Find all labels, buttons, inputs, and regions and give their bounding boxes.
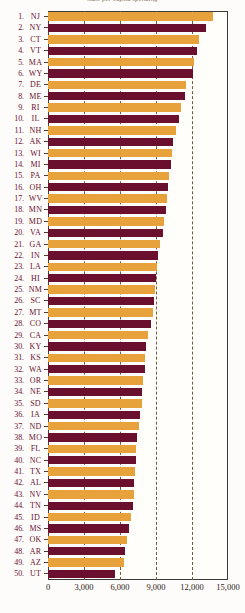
state-label: RI xyxy=(26,102,45,113)
bar-row: 33.OR xyxy=(0,375,245,386)
chart-title: state per capita spending xyxy=(0,0,245,3)
bar xyxy=(48,399,142,407)
state-label: ND xyxy=(26,421,45,432)
bar xyxy=(48,342,146,350)
bar xyxy=(48,388,142,396)
bar-row: 50.UT xyxy=(0,568,245,579)
bar xyxy=(48,103,181,111)
bar-row: 46.MS xyxy=(0,523,245,534)
bar-row: 23.LA xyxy=(0,261,245,272)
state-label: MN xyxy=(26,204,45,215)
state-label: IL xyxy=(26,113,45,124)
bar xyxy=(48,115,179,123)
bar xyxy=(48,479,134,487)
state-label: WA xyxy=(26,364,45,375)
state-label: GA xyxy=(26,239,45,250)
bar-row: 28.CO xyxy=(0,318,245,329)
bar-row: 15.PA xyxy=(0,170,245,181)
bar xyxy=(48,456,136,464)
bar xyxy=(48,69,193,77)
bar xyxy=(48,513,131,521)
x-axis-labels: 03,0006,0009,00012,00015,000 xyxy=(0,582,245,598)
rank-label: 40. xyxy=(0,455,24,466)
rank-label: 42. xyxy=(0,477,24,488)
bar-row: 31.KS xyxy=(0,352,245,363)
rank-label: 36. xyxy=(0,409,24,420)
rank-label: 9. xyxy=(0,102,24,113)
state-label: KY xyxy=(26,341,45,352)
rank-label: 29. xyxy=(0,330,24,341)
state-label: MI xyxy=(26,159,45,170)
rank-label: 45. xyxy=(0,512,24,523)
bar xyxy=(48,92,185,100)
rank-label: 48. xyxy=(0,546,24,557)
state-label: WI xyxy=(26,148,45,159)
bar-row: 26.SC xyxy=(0,295,245,306)
bar-row: 37.ND xyxy=(0,421,245,432)
rank-label: 22. xyxy=(0,250,24,261)
rank-label: 1. xyxy=(0,11,24,22)
state-label: AL xyxy=(26,477,45,488)
bar xyxy=(48,285,155,293)
state-label: UT xyxy=(26,568,45,579)
bar-row: 49.AZ xyxy=(0,557,245,568)
bar xyxy=(48,194,167,202)
state-label: FL xyxy=(26,443,45,454)
rank-label: 47. xyxy=(0,534,24,545)
x-tick-label: 9,000 xyxy=(146,582,165,592)
rank-label: 4. xyxy=(0,45,24,56)
rank-label: 13. xyxy=(0,148,24,159)
bar-row: 17.WV xyxy=(0,193,245,204)
rank-label: 46. xyxy=(0,523,24,534)
bar-row: 43.NV xyxy=(0,489,245,500)
state-label: NC xyxy=(26,455,45,466)
x-tick-label: 0 xyxy=(46,582,50,592)
bar-row: 42.AL xyxy=(0,477,245,488)
state-label: NE xyxy=(26,386,45,397)
bar xyxy=(48,251,158,259)
rank-label: 37. xyxy=(0,421,24,432)
rank-label: 24. xyxy=(0,273,24,284)
state-label: AK xyxy=(26,136,45,147)
bar xyxy=(48,217,164,225)
bar-row: 44.TN xyxy=(0,500,245,511)
state-label: NJ xyxy=(26,11,45,22)
bar-rows: 1.NJ2.NY3.CT4.VT5.MA6.WY7.DE8.ME9.RI10.I… xyxy=(0,11,245,580)
bar-row: 2.NY xyxy=(0,22,245,33)
bar xyxy=(48,558,124,566)
rank-label: 5. xyxy=(0,57,24,68)
bar xyxy=(48,274,156,282)
x-tick-label: 15,000 xyxy=(216,582,239,592)
bar-row: 36.IA xyxy=(0,409,245,420)
rank-label: 34. xyxy=(0,386,24,397)
bar-row: 9.RI xyxy=(0,102,245,113)
bar-row: 3.CT xyxy=(0,34,245,45)
bar-row: 35.SD xyxy=(0,398,245,409)
bar xyxy=(48,24,206,32)
bar-row: 11.NH xyxy=(0,125,245,136)
bar xyxy=(48,172,169,180)
state-label: MS xyxy=(26,523,45,534)
bar xyxy=(48,331,148,339)
bar-row: 27.MT xyxy=(0,307,245,318)
bar xyxy=(48,354,145,362)
bar-row: 13.WI xyxy=(0,148,245,159)
bar-row: 12.AK xyxy=(0,136,245,147)
rank-label: 17. xyxy=(0,193,24,204)
rank-label: 44. xyxy=(0,500,24,511)
bar-row: 10.IL xyxy=(0,113,245,124)
rank-label: 33. xyxy=(0,375,24,386)
bar-row: 32.WA xyxy=(0,364,245,375)
bar xyxy=(48,445,136,453)
rank-label: 20. xyxy=(0,227,24,238)
state-label: WY xyxy=(26,68,45,79)
state-label: AZ xyxy=(26,557,45,568)
bar xyxy=(48,524,129,532)
bar-row: 19.MD xyxy=(0,216,245,227)
state-label: IA xyxy=(26,409,45,420)
rank-label: 26. xyxy=(0,295,24,306)
bar-row: 40.NC xyxy=(0,455,245,466)
rank-label: 10. xyxy=(0,113,24,124)
bar-row: 30.KY xyxy=(0,341,245,352)
bar xyxy=(48,229,163,237)
